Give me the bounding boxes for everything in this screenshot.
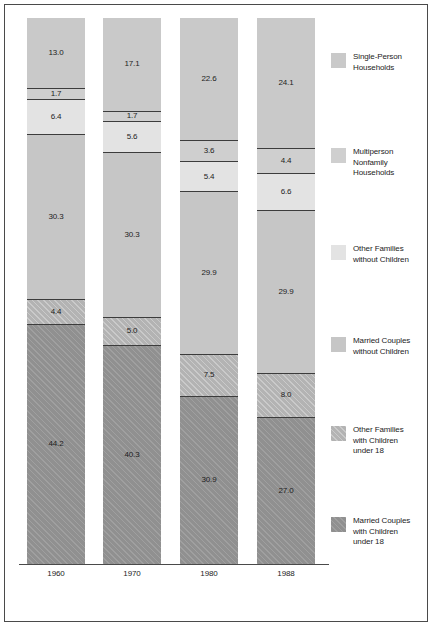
stacked-bar-1960[interactable]: 13.0 1.7 6.4 30.3 4.4 44.2 [27, 18, 85, 564]
segment-value-label: 7.5 [204, 371, 215, 379]
bar-segment[interactable]: 6.4 [27, 99, 85, 135]
chart-frame: 13.0 1.7 6.4 30.3 4.4 44.2 17.1 [4, 4, 428, 622]
bar-segment[interactable]: 30.3 [103, 152, 161, 317]
legend-swatch-icon [331, 337, 346, 352]
segment-value-label: 4.4 [51, 308, 62, 316]
segment-value-label: 5.6 [127, 133, 138, 141]
bar-segment[interactable]: 30.3 [27, 134, 85, 299]
bar-segment[interactable]: 8.0 [257, 373, 315, 417]
bar-segment[interactable]: 1.7 [27, 88, 85, 98]
bar-segment[interactable]: 7.5 [180, 354, 238, 396]
segment-value-label: 17.1 [125, 60, 140, 68]
legend-item-label: Other Families without Children [353, 244, 409, 265]
stacked-bar-1980[interactable]: 22.6 3.6 5.4 29.9 7.5 30.9 [180, 18, 238, 564]
segment-value-label: 1.7 [51, 90, 62, 98]
x-axis-tick-label: 1970 [103, 569, 161, 578]
bar-segment[interactable]: 5.0 [103, 317, 161, 345]
legend-item-label: Single-Person Households [353, 52, 402, 73]
segment-value-label: 27.0 [279, 487, 294, 495]
legend-item-other-families-without-children[interactable]: Other Families without Children [331, 244, 409, 265]
segment-value-label: 13.0 [49, 49, 64, 57]
legend-item-label: Married Couples with Children under 18 [353, 516, 410, 548]
segment-value-label: 40.3 [125, 451, 140, 459]
plot-area: 13.0 1.7 6.4 30.3 4.4 44.2 17.1 [19, 18, 329, 578]
bar-segment[interactable]: 3.6 [180, 140, 238, 161]
segment-value-label: 6.6 [281, 188, 292, 196]
stacked-bar-1970[interactable]: 17.1 1.7 5.6 30.3 5.0 40.3 [103, 18, 161, 564]
legend-item-married-couples-without-children[interactable]: Married Couples without Children [331, 336, 410, 357]
segment-value-label: 8.0 [281, 391, 292, 399]
bar-segment[interactable]: 40.3 [103, 345, 161, 564]
bar-segment[interactable]: 4.4 [27, 299, 85, 324]
bar-segment[interactable]: 44.2 [27, 324, 85, 564]
legend-item-label: Other Families with Children under 18 [353, 425, 404, 457]
bar-segment[interactable]: 5.6 [103, 121, 161, 152]
legend-item-single-person-households[interactable]: Single-Person Households [331, 52, 402, 73]
legend-item-other-families-with-children[interactable]: Other Families with Children under 18 [331, 425, 404, 457]
bar-segment[interactable]: 5.4 [180, 161, 238, 191]
segment-value-label: 1.7 [127, 112, 138, 120]
legend-item-label: Married Couples without Children [353, 336, 410, 357]
legend-swatch-icon [331, 53, 346, 68]
segment-value-label: 29.9 [279, 288, 294, 296]
segment-value-label: 29.9 [202, 269, 217, 277]
x-axis-line [19, 564, 329, 565]
segment-value-label: 22.6 [202, 75, 217, 83]
chart-legend: Single-Person Households Multiperson Non… [331, 5, 431, 623]
segment-value-label: 44.2 [49, 440, 64, 448]
x-axis-tick-label: 1980 [180, 569, 238, 578]
segment-value-label: 3.6 [204, 147, 215, 155]
bar-segment[interactable]: 30.9 [180, 396, 238, 564]
legend-item-label: Multiperson Nonfamily Households [353, 147, 394, 179]
bar-segment[interactable]: 27.0 [257, 417, 315, 564]
bar-segment[interactable]: 13.0 [27, 18, 85, 88]
bar-segment[interactable]: 4.4 [257, 148, 315, 173]
bar-segment[interactable]: 29.9 [180, 191, 238, 354]
stacked-bar-1988[interactable]: 24.1 4.4 6.6 29.9 8.0 27.0 [257, 18, 315, 564]
segment-value-label: 6.4 [51, 113, 62, 121]
bar-segment[interactable]: 24.1 [257, 18, 315, 148]
legend-swatch-icon [331, 148, 346, 163]
legend-swatch-icon [331, 245, 346, 260]
segment-value-label: 4.4 [281, 157, 292, 165]
segment-value-label: 24.1 [279, 79, 294, 87]
segment-value-label: 30.3 [125, 231, 140, 239]
legend-item-married-couples-with-children[interactable]: Married Couples with Children under 18 [331, 516, 410, 548]
x-axis-tick-label: 1960 [27, 569, 85, 578]
bar-segment[interactable]: 6.6 [257, 173, 315, 210]
x-axis-tick-label: 1988 [257, 569, 315, 578]
segment-value-label: 5.4 [204, 173, 215, 181]
segment-value-label: 30.3 [49, 213, 64, 221]
bar-segment[interactable]: 29.9 [257, 210, 315, 373]
bar-segment[interactable]: 1.7 [103, 111, 161, 121]
legend-swatch-icon [331, 517, 346, 532]
segment-value-label: 30.9 [202, 476, 217, 484]
bar-segment[interactable]: 17.1 [103, 18, 161, 111]
segment-value-label: 5.0 [127, 327, 138, 335]
legend-item-multiperson-nonfamily-households[interactable]: Multiperson Nonfamily Households [331, 147, 394, 179]
legend-swatch-icon [331, 426, 346, 441]
bar-segment[interactable]: 22.6 [180, 18, 238, 140]
